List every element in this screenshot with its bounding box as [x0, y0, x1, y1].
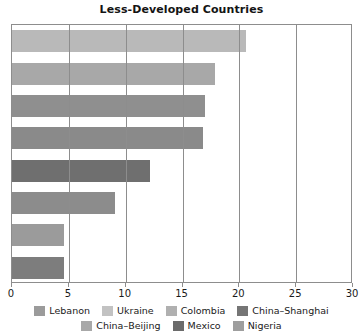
bar	[12, 224, 64, 246]
legend-row: LebanonUkraineColombiaChina–Shanghai	[0, 304, 363, 318]
bar-fill	[12, 127, 203, 149]
legend-label: China–Shanghai	[252, 306, 328, 316]
legend-label: Colombia	[181, 306, 226, 316]
gridline	[183, 25, 184, 282]
gridline	[296, 25, 297, 282]
legend-swatch-icon	[233, 321, 244, 331]
x-axis-tick-label: 0	[8, 288, 14, 299]
legend-item[interactable]: Mexico	[173, 321, 221, 331]
x-axis-tick-label: 10	[118, 288, 131, 299]
x-axis-tick-label: 25	[289, 288, 302, 299]
x-axis-tick-label: 15	[175, 288, 188, 299]
x-axis-tick	[11, 283, 12, 287]
legend-swatch-icon	[81, 321, 92, 331]
bar-fill	[12, 63, 215, 85]
bar	[12, 127, 203, 149]
legend-label: Lebanon	[49, 306, 90, 316]
legend-item[interactable]: Ukraine	[102, 306, 154, 316]
legend-item[interactable]: Colombia	[166, 306, 226, 316]
x-axis-tick-label: 5	[65, 288, 71, 299]
plot-area	[11, 24, 352, 283]
legend-row: China–BeijingMexicoNigeria	[0, 319, 363, 333]
legend-item[interactable]: China–Beijing	[81, 321, 160, 331]
legend-swatch-icon	[102, 306, 113, 316]
bar-fill	[12, 95, 205, 117]
x-axis-tick	[125, 283, 126, 287]
bar-fill	[12, 257, 64, 279]
legend-item[interactable]: China–Shanghai	[237, 306, 328, 316]
legend-label: Ukraine	[117, 306, 154, 316]
bar	[12, 257, 64, 279]
x-axis-tick-label: 30	[346, 288, 359, 299]
legend-label: China–Beijing	[96, 321, 160, 331]
bars-layer	[12, 25, 351, 282]
bar-fill	[12, 160, 150, 182]
bar	[12, 30, 246, 52]
bar	[12, 95, 205, 117]
legend-swatch-icon	[173, 321, 184, 331]
bar	[12, 63, 215, 85]
bar-fill	[12, 224, 64, 246]
x-axis-tick	[238, 283, 239, 287]
chart-container: Less-Developed Countries 051015202530 Le…	[0, 0, 363, 336]
legend-swatch-icon	[237, 306, 248, 316]
chart-title: Less-Developed Countries	[0, 3, 363, 16]
x-axis-tick-label: 20	[232, 288, 245, 299]
gridline	[239, 25, 240, 282]
legend-swatch-icon	[166, 306, 177, 316]
legend-label: Nigeria	[248, 321, 282, 331]
bar	[12, 160, 150, 182]
legend-swatch-icon	[34, 306, 45, 316]
x-axis-tick	[352, 283, 353, 287]
legend-label: Mexico	[188, 321, 221, 331]
legend-item[interactable]: Nigeria	[233, 321, 282, 331]
x-axis-tick	[182, 283, 183, 287]
bar-fill	[12, 30, 246, 52]
bar	[12, 192, 115, 214]
x-axis-tick	[68, 283, 69, 287]
bar-fill	[12, 192, 115, 214]
legend-item[interactable]: Lebanon	[34, 306, 90, 316]
gridline	[69, 25, 70, 282]
gridline	[126, 25, 127, 282]
x-axis-tick	[295, 283, 296, 287]
